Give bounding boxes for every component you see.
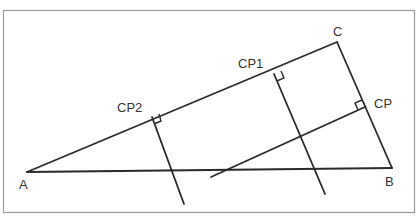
label-cp1: CP1 <box>238 56 263 71</box>
label-cp: CP <box>374 96 392 111</box>
label-c: C <box>333 24 342 39</box>
label-cp2: CP2 <box>117 100 142 115</box>
label-a: A <box>19 177 28 192</box>
diagram-frame <box>4 11 415 213</box>
label-b: B <box>385 174 394 189</box>
geometry-diagram: A B C CP1 CP2 CP <box>0 0 420 218</box>
